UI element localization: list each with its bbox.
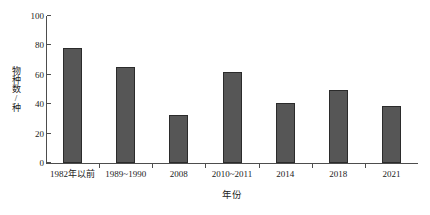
y-axis-tick: [47, 15, 51, 16]
y-axis-tick: [47, 74, 51, 75]
plot-area: [46, 16, 418, 164]
x-axis-tick-label: 1982年以前: [50, 168, 95, 180]
bar: [276, 103, 295, 163]
bar-chart: 物种数/种 020406080100 1982年以前1989~199020082…: [0, 0, 430, 215]
y-axis-tick-labels: 020406080100: [22, 0, 44, 215]
x-axis-tick-label: 2014: [276, 168, 294, 180]
y-axis-tick-label: 80: [22, 41, 44, 50]
y-axis-tick-label: 0: [22, 159, 44, 168]
bar: [223, 72, 242, 163]
x-axis-line: [46, 163, 418, 164]
y-axis-tick-label: 20: [22, 130, 44, 139]
y-axis-tick-label: 40: [22, 100, 44, 109]
y-axis-tick-label: 100: [22, 12, 44, 21]
bar: [63, 48, 82, 163]
y-axis-tick: [47, 44, 51, 45]
bar: [382, 106, 401, 163]
x-axis-tick-label: 2008: [170, 168, 188, 180]
x-axis-tick-label: 2021: [382, 168, 400, 180]
bar: [329, 90, 348, 164]
y-axis-tick-label: 60: [22, 71, 44, 80]
x-axis-tick-label: 1989~1990: [105, 168, 146, 180]
x-axis-title: 年份: [46, 190, 418, 201]
y-axis-tick: [47, 103, 51, 104]
bar: [116, 67, 135, 163]
x-axis-tick-label: 2018: [329, 168, 347, 180]
x-axis-tick-labels: 1982年以前1989~199020082010~201120142018202…: [46, 168, 418, 184]
bar: [169, 115, 188, 164]
y-axis-tick: [47, 162, 51, 163]
y-axis-line: [46, 16, 47, 164]
y-axis-tick: [47, 133, 51, 134]
x-axis-tick-label: 2010~2011: [212, 168, 253, 180]
